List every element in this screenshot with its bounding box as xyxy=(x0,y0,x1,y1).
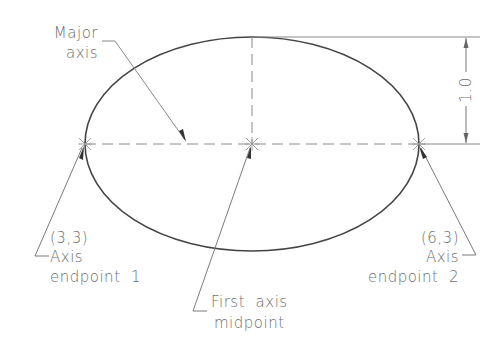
endpoint-2-label-line2: endpoint 2 xyxy=(368,268,459,286)
major-axis-arrow-icon xyxy=(179,129,186,142)
dimension-arrow-up-icon xyxy=(464,38,469,48)
endpoint-2-coord-label: (6,3) xyxy=(421,229,459,247)
major-axis-leader xyxy=(102,41,185,140)
dimension-arrow-down-icon xyxy=(464,133,469,143)
dimension-value: 1.0 xyxy=(457,77,475,102)
midpoint-label-line1: First axis xyxy=(211,293,288,311)
endpoint-2-label-line1: Axis xyxy=(426,248,459,266)
endpoint-1-label-line1: Axis xyxy=(50,248,83,266)
major-axis-label-line2: axis xyxy=(66,44,98,62)
ellipse-diagram: 1.0 Major axis (3,3) Axis endpoint 1 Fir… xyxy=(0,0,502,348)
midpoint-marker-icon xyxy=(245,137,259,151)
midpoint-label-line2: midpoint xyxy=(214,314,285,332)
midpoint-leader xyxy=(193,148,250,311)
major-axis-label-line1: Major xyxy=(54,24,98,42)
endpoint-1-label-line2: endpoint 1 xyxy=(50,268,141,286)
endpoint-1-coord-label: (3,3) xyxy=(50,229,88,247)
